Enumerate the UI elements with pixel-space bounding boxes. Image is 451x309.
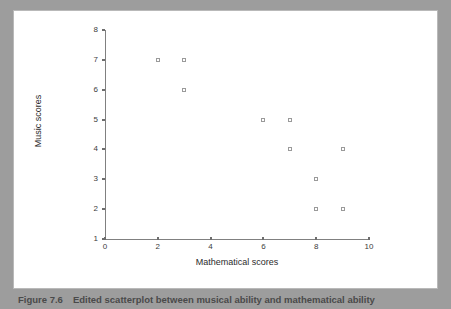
data-point	[261, 118, 265, 122]
y-tick-label-6: 6	[84, 85, 98, 94]
data-point	[341, 147, 345, 151]
figure-panel: 12345678 0246810 Mathematical scores Mus…	[14, 11, 437, 288]
x-tick-label-6: 6	[255, 242, 271, 251]
y-tick-4	[102, 148, 105, 150]
x-tick-label-4: 4	[203, 242, 219, 251]
y-tick-6	[102, 89, 105, 91]
data-point	[341, 207, 345, 211]
y-tick-label-2: 2	[84, 204, 98, 213]
x-axis-line	[105, 239, 369, 240]
x-tick-2	[157, 237, 159, 240]
x-tick-label-0: 0	[97, 242, 113, 251]
x-tick-label-2: 2	[150, 242, 166, 251]
data-point	[156, 58, 160, 62]
y-tick-label-5: 5	[84, 115, 98, 124]
x-tick-4	[210, 237, 212, 240]
x-tick-label-8: 8	[308, 242, 324, 251]
y-axis-title: Music scores	[33, 61, 43, 181]
data-point	[288, 147, 292, 151]
scatter-plot: 12345678 0246810 Mathematical scores Mus…	[14, 11, 437, 288]
y-tick-7	[102, 59, 105, 61]
y-axis-line	[105, 30, 106, 240]
figure-caption: Figure 7.6Edited scatterplot between mus…	[18, 294, 438, 305]
x-tick-10	[368, 237, 370, 240]
y-tick-2	[102, 208, 105, 210]
y-tick-label-3: 3	[84, 174, 98, 183]
page-background: 12345678 0246810 Mathematical scores Mus…	[0, 0, 451, 309]
y-tick-label-1: 1	[84, 234, 98, 243]
data-point	[314, 177, 318, 181]
y-tick-label-4: 4	[84, 144, 98, 153]
y-tick-label-7: 7	[84, 55, 98, 64]
y-tick-label-8: 8	[84, 25, 98, 34]
x-axis-title: Mathematical scores	[105, 257, 369, 267]
x-tick-0	[104, 237, 106, 240]
data-point	[182, 58, 186, 62]
figure-caption-label: Figure 7.6	[18, 294, 63, 305]
data-point	[314, 207, 318, 211]
x-tick-label-10: 10	[361, 242, 377, 251]
y-tick-3	[102, 178, 105, 180]
data-point	[182, 88, 186, 92]
x-tick-6	[262, 237, 264, 240]
data-point	[288, 118, 292, 122]
x-tick-8	[315, 237, 317, 240]
figure-caption-text: Edited scatterplot between musical abili…	[73, 294, 375, 305]
y-tick-5	[102, 119, 105, 121]
y-tick-8	[102, 29, 105, 31]
